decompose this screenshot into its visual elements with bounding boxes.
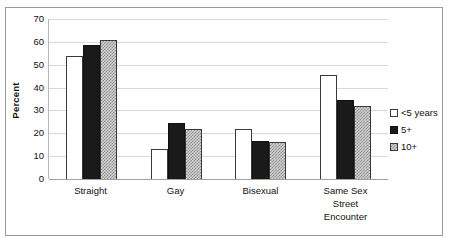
x-axis-category-label: Gay [133, 184, 218, 223]
plot-area [48, 19, 388, 179]
y-axis-tick-label: 0 [22, 174, 44, 184]
legend-swatch-icon [390, 143, 398, 151]
y-axis-title-label: Percent [10, 61, 21, 141]
bar-group-bars [49, 19, 134, 179]
chart-legend: <5 years5+10+ [390, 104, 446, 155]
bar[interactable] [100, 40, 117, 179]
x-axis-category-label-line: Straight [48, 184, 133, 197]
bar[interactable] [252, 141, 269, 179]
bar-group-bars [303, 19, 388, 179]
x-axis-category-label-line: Bisexual [218, 184, 303, 197]
bar-group-bars [219, 19, 304, 179]
x-axis-category-label: Same SexStreetEncounter [303, 184, 388, 223]
y-axis-tick-label: 30 [22, 105, 44, 115]
x-axis-category-label-line: Encounter [303, 210, 388, 223]
x-axis-category-label-line: Gay [133, 184, 218, 197]
y-axis-tick-label: 20 [22, 128, 44, 138]
y-axis-tick-label: 70 [22, 14, 44, 24]
bar[interactable] [269, 142, 286, 179]
y-axis-tick-label: 10 [22, 151, 44, 161]
y-axis-tick-label: 40 [22, 83, 44, 93]
bar[interactable] [337, 100, 354, 179]
chart-plot-wrapper: Percent 706050403020100 StraightGayBisex… [6, 8, 442, 235]
bar-group [49, 19, 134, 179]
bar-group [219, 19, 304, 179]
x-axis-category-label-line: Same Sex [303, 184, 388, 197]
x-axis-category-labels: StraightGayBisexualSame SexStreetEncount… [48, 184, 388, 223]
legend-swatch-icon [390, 109, 398, 117]
x-axis-category-label: Straight [48, 184, 133, 223]
bar[interactable] [354, 106, 371, 179]
bar[interactable] [185, 129, 202, 179]
bar[interactable] [66, 56, 83, 179]
bar-group [303, 19, 388, 179]
bar[interactable] [320, 75, 337, 179]
bar-group [134, 19, 219, 179]
y-axis-tick-labels: 706050403020100 [22, 14, 44, 174]
legend-item-label: 5+ [401, 124, 412, 135]
y-axis-title: Percent [8, 60, 22, 140]
legend-swatch-icon [390, 126, 398, 134]
x-axis-category-label: Bisexual [218, 184, 303, 223]
bar[interactable] [83, 45, 100, 179]
bar[interactable] [235, 129, 252, 179]
bar[interactable] [151, 149, 168, 179]
legend-item-label: <5 years [401, 107, 438, 118]
chart-frame: Percent 706050403020100 StraightGayBisex… [5, 7, 443, 236]
bar[interactable] [168, 123, 185, 179]
y-axis-tick-label: 60 [22, 37, 44, 47]
y-axis-tick-label: 50 [22, 60, 44, 70]
x-axis-category-label-line: Street [303, 197, 388, 210]
legend-item-label: 10+ [401, 141, 417, 152]
bar-groups [49, 19, 388, 179]
legend-item[interactable]: 10+ [390, 138, 446, 155]
legend-item[interactable]: <5 years [390, 104, 446, 121]
axis-baseline [49, 179, 388, 180]
legend-item[interactable]: 5+ [390, 121, 446, 138]
bar-group-bars [134, 19, 219, 179]
